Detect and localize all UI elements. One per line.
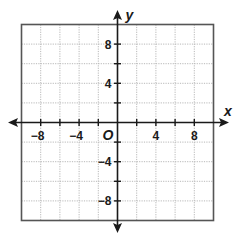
x-tick-label: 4 (153, 129, 160, 143)
coordinate-plane: −8−44884−4−8 x y O (0, 0, 237, 239)
x-tick-label: 8 (191, 129, 198, 143)
origin-label: O (103, 127, 114, 143)
y-tick-label: 4 (105, 77, 112, 91)
y-tick-label: 8 (105, 38, 112, 52)
y-tick-label: −4 (98, 155, 112, 169)
y-tick-label: −8 (98, 194, 112, 208)
x-axis-label: x (223, 103, 233, 119)
y-axis-label: y (125, 7, 135, 23)
x-tick-label: −4 (69, 129, 83, 143)
x-tick-label: −8 (31, 129, 45, 143)
